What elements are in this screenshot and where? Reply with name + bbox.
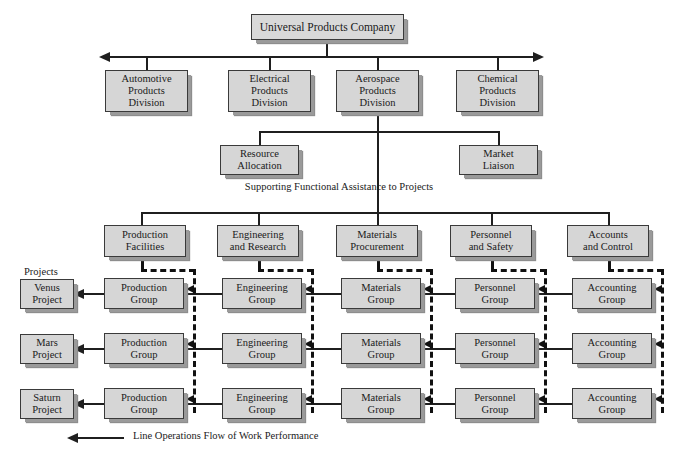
box-label: Production Facilities <box>120 229 170 253</box>
box-label: Accounting Group <box>586 282 639 306</box>
box-label: Personnel Group <box>472 337 517 361</box>
connector-drop-electrical <box>269 57 271 70</box>
connector-functional-drop-production <box>141 212 143 225</box>
box-label: Universal Products Company <box>258 21 397 34</box>
box-label: Resource Allocation <box>235 148 283 172</box>
box-staff-resource-allocation[interactable]: Resource Allocation <box>220 145 299 175</box>
dashed-tick-venus-engineering <box>304 285 312 293</box>
legend-text: Line Operations Flow of Work Performance <box>133 430 318 441</box>
box-staff-market-liaison[interactable]: Market Liaison <box>459 145 538 175</box>
box-group-mars-production[interactable]: Production Group <box>104 333 184 364</box>
box-label: Engineering Group <box>234 392 289 416</box>
dashed-drop-materials <box>377 258 380 269</box>
box-group-venus-materials[interactable]: Materials Group <box>341 278 421 309</box>
box-label: Accounting Group <box>586 337 639 361</box>
dashed-tick-mars-personnel <box>537 340 545 348</box>
box-function-materials-procurement[interactable]: Materials Procurement <box>336 225 418 257</box>
connector-functional-drop-engineering <box>258 212 260 225</box>
connector-functional-drop-personnel <box>491 212 493 225</box>
box-group-mars-accounting[interactable]: Accounting Group <box>572 333 652 364</box>
box-project-mars[interactable]: Mars Project <box>20 334 74 364</box>
box-label: Aerospace Products Division <box>353 73 401 109</box>
box-label: Market Liaison <box>481 148 517 172</box>
connector-functional-drop-accounts <box>608 212 610 225</box>
connector-drop-aerospace <box>377 57 379 70</box>
dashed-tick-saturn-materials <box>423 395 431 403</box>
box-label: Automotive Products Division <box>119 73 173 109</box>
dashed-elbow-accounts <box>608 269 663 272</box>
connector-top-stem <box>326 40 328 56</box>
box-group-mars-personnel[interactable]: Personnel Group <box>455 333 535 364</box>
arrowhead-division-bus-right <box>533 52 544 62</box>
box-group-saturn-materials[interactable]: Materials Group <box>341 388 421 419</box>
box-label: Venus Project <box>30 282 64 306</box>
box-label: Electrical Products Division <box>247 73 291 109</box>
legend-label: Line Operations Flow of Work Performance <box>133 430 318 441</box>
arrowhead-row2-to-mars <box>73 344 84 354</box>
box-group-saturn-personnel[interactable]: Personnel Group <box>455 388 535 419</box>
connector-functional-bus <box>141 212 610 214</box>
box-label: Materials Group <box>359 392 403 416</box>
box-universal-products-company[interactable]: Universal Products Company <box>251 14 404 40</box>
box-label: Materials Group <box>359 337 403 361</box>
box-label: Production Group <box>119 337 169 361</box>
box-group-saturn-engineering[interactable]: Engineering Group <box>222 388 302 419</box>
box-label: Materials Procurement <box>348 229 406 253</box>
dashed-drop-engineering <box>258 258 261 269</box>
dashed-tick-venus-personnel <box>537 285 545 293</box>
box-group-mars-materials[interactable]: Materials Group <box>341 333 421 364</box>
box-function-engineering-and-research[interactable]: Engineering and Research <box>217 225 299 257</box>
box-division-aerospace[interactable]: Aerospace Products Division <box>336 70 419 112</box>
box-label: Accounting Group <box>586 392 639 416</box>
box-group-venus-accounting[interactable]: Accounting Group <box>572 278 652 309</box>
box-function-personnel-and-safety[interactable]: Personnel and Safety <box>450 225 532 257</box>
box-label: Accounts and Control <box>581 229 635 253</box>
arrowhead-row3-to-saturn <box>73 399 84 409</box>
box-group-mars-engineering[interactable]: Engineering Group <box>222 333 302 364</box>
dashed-elbow-materials <box>377 269 432 272</box>
box-division-chemical[interactable]: Chemical Products Division <box>456 70 539 112</box>
caption-supporting-functional-assistance: Supporting Functional Assistance to Proj… <box>0 181 678 192</box>
caption-text: Projects <box>24 266 58 277</box>
box-label: Engineering Group <box>234 282 289 306</box>
box-group-saturn-production[interactable]: Production Group <box>104 388 184 419</box>
dashed-elbow-personnel <box>491 269 546 272</box>
dashed-tick-mars-accounting <box>654 340 662 348</box>
connector-staff-drop-right <box>498 131 500 145</box>
box-label: Production Group <box>119 392 169 416</box>
box-function-production-facilities[interactable]: Production Facilities <box>104 225 186 257</box>
arrowhead-division-bus-left <box>99 52 110 62</box>
box-label: Personnel and Safety <box>467 229 516 253</box>
dashed-drop-accounts <box>608 258 611 269</box>
dashed-tick-mars-production <box>186 340 194 348</box>
box-group-saturn-accounting[interactable]: Accounting Group <box>572 388 652 419</box>
box-label: Saturn Project <box>30 392 64 416</box>
org-chart-canvas: Universal Products Company Automotive Pr… <box>0 0 678 456</box>
dashed-tick-saturn-engineering <box>304 395 312 403</box>
box-label: Personnel Group <box>472 282 517 306</box>
connector-drop-chemical <box>497 57 499 70</box>
dashed-tick-venus-production <box>186 285 194 293</box>
box-function-accounts-and-control[interactable]: Accounts and Control <box>567 225 649 257</box>
connector-functional-drop-materials <box>377 212 379 225</box>
box-project-saturn[interactable]: Saturn Project <box>20 389 74 419</box>
dashed-tick-saturn-accounting <box>654 395 662 403</box>
box-label: Chemical Products Division <box>475 73 519 109</box>
caption-text: Supporting Functional Assistance to Proj… <box>245 181 433 192</box>
box-division-automotive[interactable]: Automotive Products Division <box>105 70 188 112</box>
box-group-venus-engineering[interactable]: Engineering Group <box>222 278 302 309</box>
box-label: Production Group <box>119 282 169 306</box>
box-project-venus[interactable]: Venus Project <box>20 279 74 309</box>
box-label: Personnel Group <box>472 392 517 416</box>
box-group-venus-production[interactable]: Production Group <box>104 278 184 309</box>
caption-projects: Projects <box>24 266 58 277</box>
box-label: Materials Group <box>359 282 403 306</box>
box-group-venus-personnel[interactable]: Personnel Group <box>455 278 535 309</box>
connector-division-bus <box>108 56 534 58</box>
box-label: Engineering Group <box>234 337 289 361</box>
connector-staff-drop-left <box>259 131 261 145</box>
box-division-electrical[interactable]: Electrical Products Division <box>228 70 311 112</box>
box-label: Mars Project <box>30 337 64 361</box>
dashed-tick-mars-engineering <box>304 340 312 348</box>
dashed-tick-saturn-production <box>186 395 194 403</box>
